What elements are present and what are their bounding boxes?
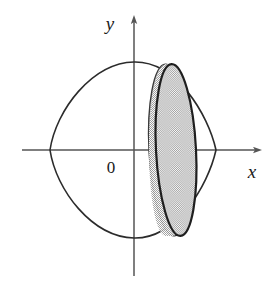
- origin-label: 0: [107, 158, 116, 177]
- x-axis-label: x: [247, 161, 257, 182]
- y-axis-label: y: [104, 13, 115, 34]
- figure-canvas: y x 0: [0, 0, 278, 282]
- math-figure: y x 0: [0, 0, 278, 282]
